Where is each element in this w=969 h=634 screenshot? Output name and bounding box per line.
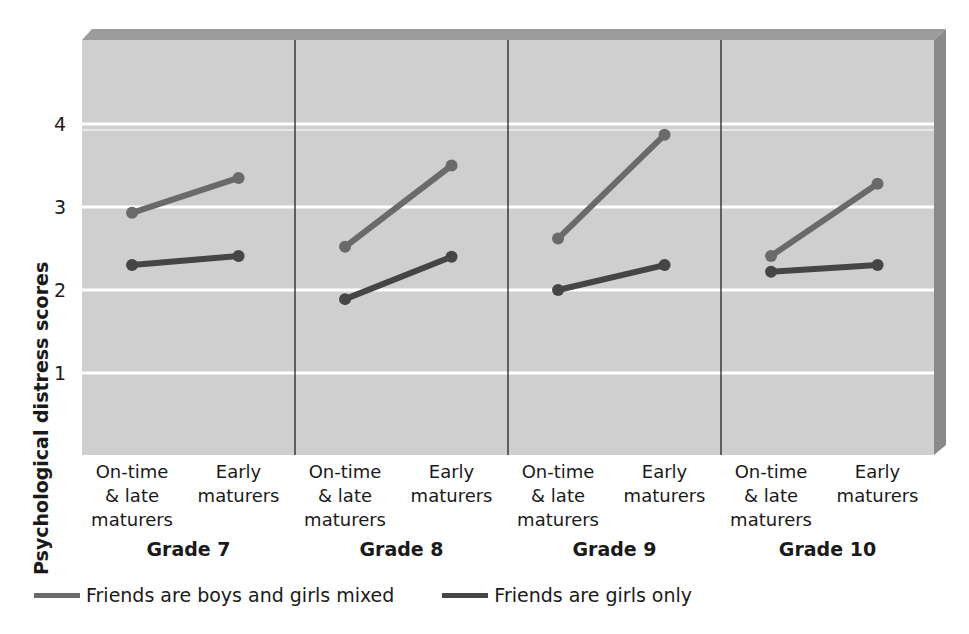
x-category-label: On-time — [522, 461, 595, 482]
x-category-label: maturers — [411, 485, 493, 506]
data-point — [339, 241, 351, 253]
data-point — [552, 284, 564, 296]
data-point — [765, 250, 777, 262]
group-label: Grade 8 — [359, 538, 443, 560]
x-category-label: & late — [105, 485, 159, 506]
data-point — [659, 259, 671, 271]
data-point — [339, 293, 351, 305]
x-category-label: Early — [216, 461, 262, 482]
data-point — [872, 259, 884, 271]
plot-right-band — [934, 29, 946, 455]
y-axis-label: Psychological distress scores — [30, 262, 52, 575]
legend-item-girls-only: Friends are girls only — [442, 584, 692, 606]
data-point — [126, 207, 138, 219]
data-point — [659, 129, 671, 141]
group-label: Grade 7 — [146, 538, 230, 560]
y-tick-1: 1 — [54, 362, 66, 384]
legend-swatch-girls-only — [442, 593, 488, 598]
y-tick-4: 4 — [54, 113, 66, 135]
x-category-label: Early — [429, 461, 475, 482]
x-category-label: On-time — [96, 461, 169, 482]
legend-label-mixed: Friends are boys and girls mixed — [86, 584, 394, 606]
x-category-label: & late — [318, 485, 372, 506]
data-point — [446, 160, 458, 172]
x-category-label: On-time — [735, 461, 808, 482]
x-category-label: & late — [531, 485, 585, 506]
data-point — [126, 259, 138, 271]
x-category-label: On-time — [309, 461, 382, 482]
x-category-label: & late — [744, 485, 798, 506]
plot-top-band — [82, 29, 946, 40]
x-category-label: maturers — [624, 485, 706, 506]
x-category-label: Early — [855, 461, 901, 482]
data-point — [233, 250, 245, 262]
x-category-label: maturers — [517, 509, 599, 530]
group-label: Grade 10 — [779, 538, 876, 560]
data-point — [552, 233, 564, 245]
legend-swatch-mixed — [34, 593, 80, 598]
x-category-label: maturers — [837, 485, 919, 506]
y-tick-2: 2 — [54, 279, 66, 301]
legend-label-girls-only: Friends are girls only — [494, 584, 692, 606]
y-tick-3: 3 — [54, 196, 66, 218]
x-category-label: Early — [642, 461, 688, 482]
x-category-label: maturers — [91, 509, 173, 530]
chart: 1234On-time& latematurersEarlymaturersGr… — [0, 0, 969, 634]
legend-item-mixed: Friends are boys and girls mixed — [34, 584, 394, 606]
x-category-label: maturers — [304, 509, 386, 530]
data-point — [765, 266, 777, 278]
group-label: Grade 9 — [572, 538, 656, 560]
x-category-label: maturers — [198, 485, 280, 506]
data-point — [872, 178, 884, 190]
data-point — [233, 172, 245, 184]
x-category-label: maturers — [730, 509, 812, 530]
data-point — [446, 251, 458, 263]
legend: Friends are boys and girls mixed Friends… — [34, 584, 692, 606]
